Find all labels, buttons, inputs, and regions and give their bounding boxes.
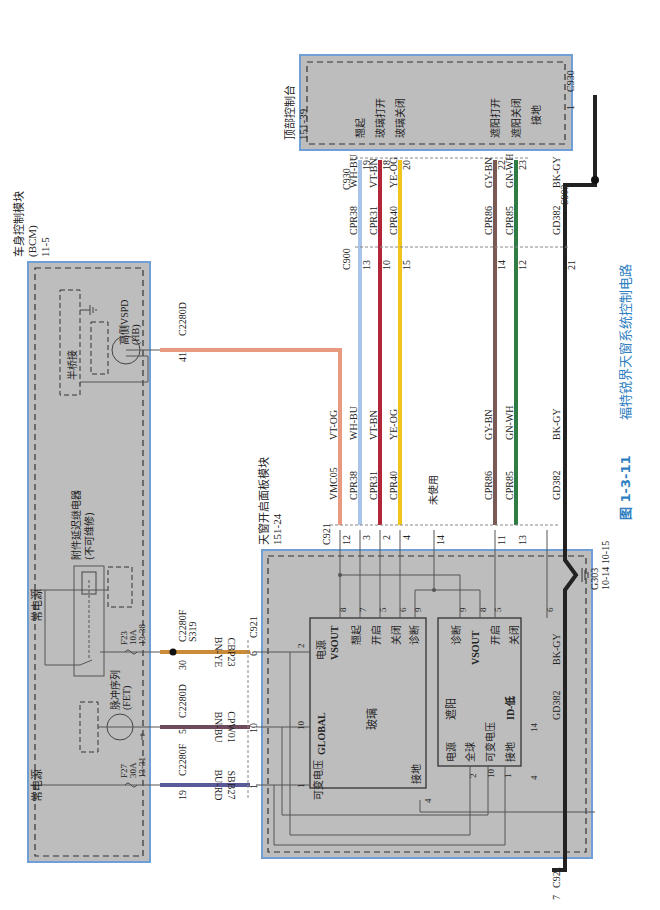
glass-pin-7: 7 bbox=[358, 607, 368, 612]
shade-pin-8: 8 bbox=[478, 607, 488, 612]
high-side-label: 高侧VSPD bbox=[118, 299, 130, 345]
fuse-f27-page: 13-31 bbox=[137, 757, 147, 778]
pin-c921-14: 14 bbox=[435, 535, 446, 545]
cbp23-color: BN-YE bbox=[213, 637, 224, 668]
console-glass-open: 玻璃打开 bbox=[374, 98, 386, 138]
glass-pin-5: 5 bbox=[378, 607, 388, 612]
splice-s319: S319 bbox=[187, 621, 198, 642]
shade-pin-6: 6 bbox=[545, 607, 555, 612]
g303-pages: 10-14 10-15 bbox=[600, 541, 611, 590]
pin-c921-13: 13 bbox=[517, 535, 528, 545]
cpw01-color: BN-BU bbox=[213, 711, 224, 743]
pin-c930-18: 18 bbox=[381, 160, 392, 170]
console-tilt: 翘起 bbox=[355, 118, 366, 138]
unused-label: 未使用 bbox=[427, 475, 439, 505]
shade-diag: 诊断 bbox=[450, 625, 462, 645]
figure-title: 福特锐界天窗系统控制电路 bbox=[618, 264, 633, 420]
shade-id-low: ID-低 bbox=[504, 696, 516, 720]
cpr86-color: GY-BN bbox=[483, 409, 494, 440]
console-glass-close: 玻璃关闭 bbox=[394, 98, 406, 138]
half-bridge-label: 半桥接 bbox=[66, 350, 78, 380]
pin-c930-19: 19 bbox=[361, 160, 372, 170]
shade-title: 遮阳 bbox=[444, 698, 458, 720]
splice-s903-dot bbox=[591, 176, 599, 184]
connector-c930-b: C930 bbox=[565, 70, 576, 92]
shade-vsout: VSOUT bbox=[470, 630, 481, 665]
pin-c921-11: 11 bbox=[496, 535, 507, 545]
connector-c2280d-b: C2280D bbox=[177, 684, 188, 718]
connector-c900: C900 bbox=[341, 248, 352, 270]
connector-c921-a: C921 bbox=[248, 616, 259, 638]
pin-30: 30 bbox=[177, 660, 188, 670]
sbb27-circuit: SBB27 bbox=[226, 771, 237, 800]
cpr38-circuit: CPR38 bbox=[348, 471, 359, 500]
shade-close: 关闭 bbox=[508, 625, 520, 645]
power-label-bottom: 常电源 bbox=[30, 769, 44, 802]
gd382-color-lower: BK-GY bbox=[551, 408, 562, 440]
glass-close: 关闭 bbox=[390, 625, 402, 645]
pin-c921-4: 4 bbox=[401, 535, 412, 540]
connector-c921-b: C921 bbox=[321, 523, 332, 545]
connector-c930-a: C930 bbox=[341, 168, 352, 190]
pin-5: 5 bbox=[177, 729, 188, 734]
shade-var-voltage: 可变电压 bbox=[484, 722, 496, 762]
gd382-circuit-upper: GD382 bbox=[551, 206, 562, 235]
shade-pin-10: 10 bbox=[486, 769, 496, 779]
shade-pin-5: 5 bbox=[493, 607, 503, 612]
cpr40-circuit: CPR40 bbox=[388, 471, 399, 500]
power-label-top: 常电源 bbox=[30, 589, 44, 622]
glass-power: 电源 bbox=[315, 640, 327, 660]
glass-ground: 接地 bbox=[410, 764, 422, 784]
connector-c2280f-b: C2280F bbox=[177, 743, 188, 776]
sbb27-color: BU-RD bbox=[213, 769, 224, 800]
console-shade-open: 遮阳打开 bbox=[489, 98, 501, 138]
cpr31-circuit: CPR31 bbox=[368, 471, 379, 500]
connector-c921-c: C921 bbox=[551, 866, 562, 888]
panel-name: 天窗开启面板模块 bbox=[257, 457, 271, 545]
glass-var-voltage: 可变电压 bbox=[312, 760, 324, 800]
fuse-f23-page: 13-38 bbox=[137, 624, 147, 645]
relay-label: 附件延迟继电器 bbox=[70, 490, 82, 560]
vmc05-color: VT-OG bbox=[328, 410, 339, 440]
cpr85-circuit-upper: CPR85 bbox=[504, 206, 515, 235]
pin-c921-12: 12 bbox=[341, 535, 352, 545]
wiring-diagram: 车身控制模块 (BCM) 11-5 半桥接 高侧VSPD (HB) 附件延迟继电… bbox=[0, 0, 660, 910]
glass-diag: 诊断 bbox=[408, 625, 420, 645]
shade-pin-1: 1 bbox=[503, 774, 513, 779]
cbp23-circuit: CBP23 bbox=[226, 638, 237, 667]
shade-power: 电源 bbox=[445, 742, 457, 762]
bcm-abbr: (BCM) bbox=[26, 225, 39, 257]
glass-title: 玻璃 bbox=[365, 708, 379, 730]
console-shade-close: 遮阳关闭 bbox=[510, 98, 522, 138]
pin-c900-14: 14 bbox=[496, 260, 507, 270]
cpr31-color: VT-BN bbox=[368, 410, 379, 440]
glass-open: 开启 bbox=[370, 625, 382, 645]
pin-c930-23: 23 bbox=[517, 160, 528, 170]
figure-number: 图 1-3-11 bbox=[618, 456, 633, 521]
console-ground: 接地 bbox=[530, 105, 542, 125]
cpr38-circuit-upper: CPR38 bbox=[348, 206, 359, 235]
console-page: 151-39 bbox=[297, 108, 309, 140]
wire-vmc05 bbox=[160, 350, 340, 525]
gd382-color-bottom: BK-GY bbox=[551, 633, 562, 665]
shade-global: 全球 bbox=[464, 742, 476, 762]
glass-pin-6: 6 bbox=[398, 607, 408, 612]
bcm-wire-labels: BN-YE CBP23 BN-BU CPW01 BU-RD SBB27 bbox=[213, 637, 237, 801]
gd382-circuit-bottom: GD382 bbox=[551, 691, 562, 720]
pin-c930-1: 1 bbox=[565, 105, 576, 110]
pulse-label: 脉冲序列 bbox=[109, 670, 121, 710]
pin-41: 41 bbox=[177, 352, 188, 362]
glass-pin-10: 10 bbox=[296, 721, 306, 731]
bcm-name: 车身控制模块 bbox=[12, 191, 26, 257]
high-side-sub: (HB) bbox=[130, 324, 142, 345]
glass-pin-1: 1 bbox=[296, 784, 306, 789]
pin-c930-22: 22 bbox=[496, 160, 507, 170]
cpr86-circuit-upper: CPR86 bbox=[483, 206, 494, 235]
glass-pin-4: 4 bbox=[423, 798, 433, 803]
pin-c921-3: 3 bbox=[361, 535, 372, 540]
pin-c900-13: 13 bbox=[361, 260, 372, 270]
shade-pin-4: 4 bbox=[529, 775, 539, 780]
cpr40-circuit-upper: CPR40 bbox=[388, 206, 399, 235]
vmc05-circuit: VMC05 bbox=[328, 467, 339, 500]
glass-pin-2: 2 bbox=[296, 644, 306, 649]
